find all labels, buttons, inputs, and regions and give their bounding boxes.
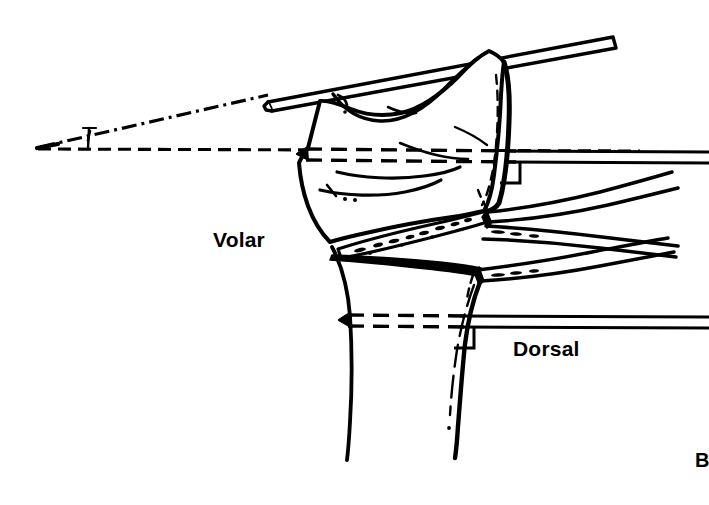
proximal-axis-solid-lower xyxy=(505,162,709,163)
proximal-axis-dash-lower xyxy=(306,160,516,162)
figure-panel-label: B xyxy=(695,449,709,472)
stipple-dot-b xyxy=(343,197,347,201)
stipple-dot-a xyxy=(343,110,347,114)
proximal-axis-dash-upper xyxy=(306,149,516,151)
anatomical-line-drawing xyxy=(0,0,709,505)
dorsal-label: Dorsal xyxy=(513,337,580,361)
volar-label: Volar xyxy=(213,228,265,252)
stipple-dot-c xyxy=(353,198,357,202)
proximal-axis-solid-upper xyxy=(505,151,709,152)
figure-panel: Volar Dorsal B xyxy=(0,0,709,505)
angle-arc-tick xyxy=(88,128,89,148)
shaft-stipple-dot xyxy=(447,426,451,430)
distal-axis-solid-lower xyxy=(460,327,709,328)
distal-axis-solid-upper xyxy=(460,316,709,317)
